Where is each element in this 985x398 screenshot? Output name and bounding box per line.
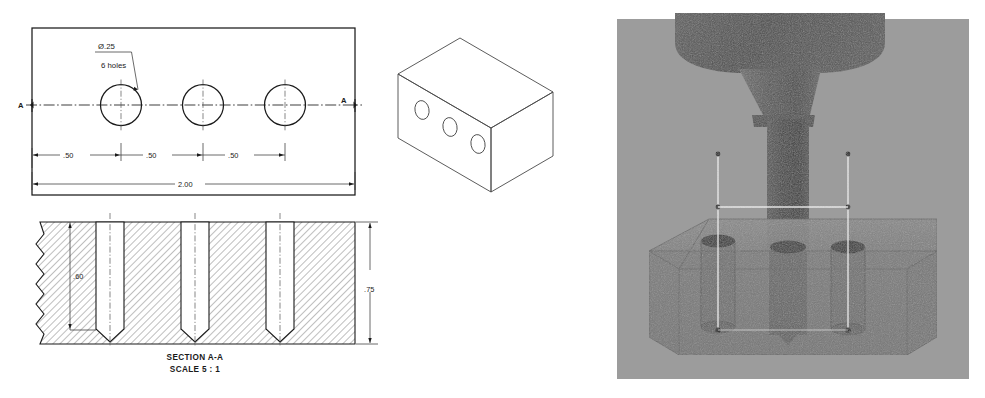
iso-front-face (398, 74, 491, 192)
part-thickness-dimension: .75 (356, 222, 378, 344)
section-letter-right: A (341, 96, 347, 105)
overall-length-dimension: 2.00 (32, 172, 355, 190)
section-view: .60 .75 SECTION A-A SCALE 5 : 1 (36, 213, 378, 374)
isometric-view (398, 38, 553, 192)
hole-quantity-label: 6 holes (101, 61, 126, 70)
iso-hole-3 (469, 133, 486, 154)
spindle-housing (675, 13, 885, 73)
spacing-dimension-2: .50 (146, 151, 157, 160)
render-canvas (617, 19, 969, 379)
section-arrow-right (354, 99, 358, 112)
spacing-dimension-3: .50 (228, 151, 239, 160)
overall-length-label: 2.00 (178, 180, 193, 189)
part-thickness-label: .75 (364, 285, 375, 294)
iso-hole-2 (441, 116, 458, 137)
stock-front-face (649, 251, 937, 355)
engineering-drawing-panel: A A (0, 0, 600, 398)
hole-diameter-label: Ø.25 (98, 42, 116, 51)
top-view-outline (32, 28, 355, 195)
iso-holes (413, 99, 486, 154)
iso-hole-1 (413, 99, 430, 120)
top-view: A A (18, 28, 362, 195)
iso-top-face (398, 38, 553, 128)
drawing-canvas: A A (0, 0, 600, 398)
hole-depth-label: .60 (73, 272, 84, 281)
section-letter-left: A (18, 101, 24, 110)
spacing-dimension-1: .50 (63, 151, 74, 160)
screenshot-root: A A (0, 0, 985, 398)
section-caption-title: SECTION A-A (167, 353, 224, 362)
spacing-dimension-chain: .50 .50 .50 (32, 143, 285, 168)
cam-simulation-render (617, 19, 969, 379)
section-arrow-left (30, 99, 34, 112)
section-caption-scale: SCALE 5 : 1 (170, 365, 220, 374)
iso-right-face (491, 92, 553, 192)
drilled-hole-center (770, 241, 806, 254)
